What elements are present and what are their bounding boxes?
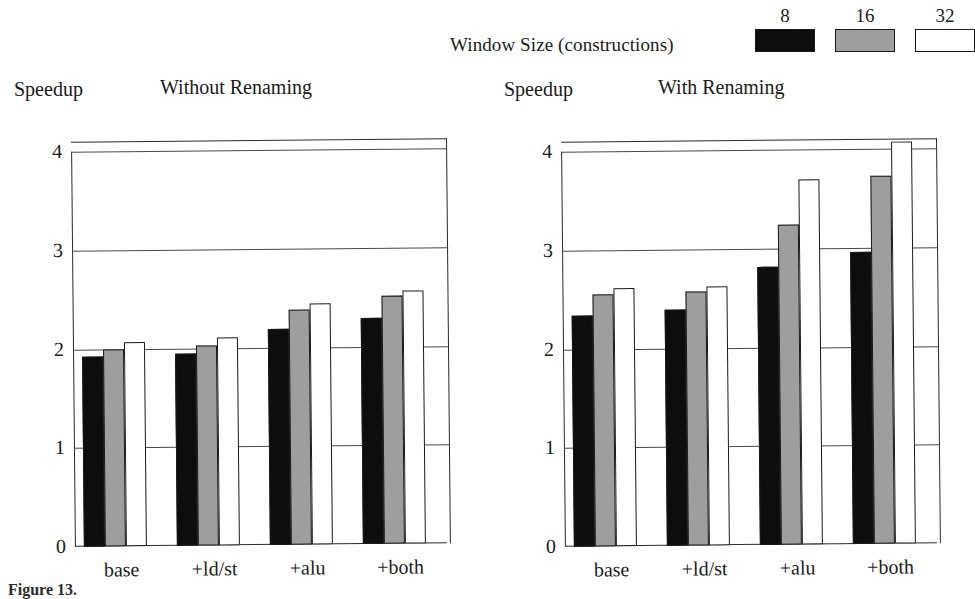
bar-group: +alu	[747, 149, 844, 545]
bar-alu-8	[757, 266, 781, 545]
legend-key-label: 8	[780, 6, 790, 26]
bar-both-8	[850, 252, 874, 544]
chart-panel-without-renaming: Speedup Without Renaming 01234 base+ld/s…	[8, 78, 468, 590]
bar-ldst-32	[706, 286, 729, 545]
plot-frame-top	[71, 138, 447, 143]
bar-ldst-32	[217, 337, 240, 546]
chart-panel-with-renaming: Speedup With Renaming 01234 base+ld/st+a…	[498, 78, 958, 590]
bar-group: base	[561, 151, 658, 547]
bar-base-32	[124, 342, 147, 547]
x-tick-label: +alu	[751, 556, 844, 580]
bar-alu-8	[268, 328, 291, 544]
bar-ldst-8	[175, 354, 198, 546]
bar-ldst-16	[685, 292, 708, 546]
bar-group: +ld/st	[164, 150, 261, 546]
bar-group: +both	[350, 148, 447, 544]
bar-alu-32	[310, 303, 333, 544]
y-axis-label: Speedup	[504, 78, 573, 101]
legend-key-label: 32	[936, 6, 955, 26]
bar-both-32	[891, 142, 916, 544]
bar-group: base	[71, 151, 168, 547]
bar-alu-16	[289, 309, 312, 544]
figure-caption: Figure 13.	[8, 581, 77, 599]
x-tick-label: +both	[844, 555, 937, 579]
bar-both-8	[361, 318, 384, 544]
chart-title: Without Renaming	[160, 76, 312, 99]
x-tick-label: +ld/st	[168, 557, 261, 581]
legend-key-16: 16	[835, 6, 895, 52]
bar-group: +alu	[257, 149, 354, 545]
legend-title: Window Size (constructions)	[450, 34, 674, 56]
legend-keys: 8 16 32	[755, 6, 975, 52]
legend-swatch-16	[835, 29, 895, 52]
bar-base-32	[613, 288, 636, 546]
bar-group: +ld/st	[654, 150, 751, 546]
bar-base-8	[82, 357, 105, 547]
x-tick-label: +alu	[261, 556, 354, 580]
bar-both-16	[870, 175, 895, 544]
x-tick-label: +both	[354, 555, 447, 579]
legend-key-32: 32	[915, 6, 975, 52]
bar-base-8	[572, 315, 595, 546]
legend-swatch-8	[755, 29, 815, 52]
bar-alu-16	[778, 225, 802, 545]
x-tick-label: +ld/st	[658, 557, 751, 581]
legend-swatch-32	[915, 29, 975, 52]
bar-group: +both	[840, 148, 937, 544]
legend-key-label: 16	[856, 6, 875, 26]
legend: Window Size (constructions) 8 16 32	[450, 6, 950, 60]
bar-both-32	[402, 291, 425, 544]
y-axis-label: Speedup	[14, 78, 83, 101]
plot-frame-right	[446, 138, 451, 543]
bar-groups: base+ld/st+alu+both	[561, 148, 937, 547]
bar-ldst-16	[196, 345, 219, 546]
bar-groups: base+ld/st+alu+both	[71, 148, 447, 547]
bar-base-16	[592, 294, 615, 546]
plot-area: 01234 base+ld/st+alu+both	[71, 148, 447, 547]
bar-alu-32	[798, 179, 823, 545]
x-tick-label: base	[75, 558, 168, 582]
bar-both-16	[382, 296, 405, 544]
legend-key-8: 8	[755, 6, 815, 52]
plot-area: 01234 base+ld/st+alu+both	[561, 148, 937, 547]
bar-base-16	[103, 349, 126, 547]
plot-frame-right	[936, 138, 941, 543]
chart-title: With Renaming	[658, 76, 784, 99]
plot-frame-top	[561, 138, 937, 143]
bar-ldst-8	[665, 310, 688, 546]
x-tick-label: base	[565, 558, 658, 582]
